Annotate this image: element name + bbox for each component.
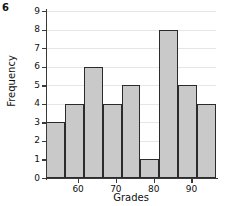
y-axis-tick-label: 9 [30, 7, 40, 16]
y-axis-tick-label: 6 [30, 62, 40, 71]
y-axis-line [46, 9, 47, 180]
y-axis-tick-label: 1 [30, 155, 40, 164]
histogram-bar [122, 85, 141, 178]
y-axis-tick [42, 30, 47, 31]
y-axis-tick-label: 8 [30, 25, 40, 34]
histogram-bar [103, 104, 122, 178]
x-axis-tick [154, 179, 155, 183]
bars-layer [46, 11, 216, 178]
y-axis-tick-label: 2 [30, 136, 40, 145]
y-axis-tick [42, 48, 47, 49]
x-axis-title: Grades [46, 192, 216, 204]
y-axis-tick-label: 0 [30, 174, 40, 183]
y-axis-tick [42, 141, 47, 142]
x-axis-tick [116, 179, 117, 183]
y-axis-tick-label: 5 [30, 81, 40, 90]
x-axis-tick [78, 179, 79, 183]
histogram-bar [65, 104, 84, 178]
y-axis-title: Frequency [6, 31, 18, 131]
y-axis-tick-label: 4 [30, 99, 40, 108]
y-axis-tick [42, 11, 47, 12]
y-axis-tick [42, 67, 47, 68]
y-axis-tick-label: 3 [30, 118, 40, 127]
figure-number: 6 [2, 2, 9, 14]
y-axis-tick [42, 178, 47, 179]
y-axis-tick-label: 7 [30, 44, 40, 53]
histogram-bar [178, 85, 197, 178]
y-axis-tick [42, 159, 47, 160]
y-axis-tick-labels: 0123456789 [28, 0, 40, 206]
y-axis-tick [42, 85, 47, 86]
y-axis-tick [42, 122, 47, 123]
plot-area [46, 11, 216, 178]
histogram-bar [84, 67, 103, 178]
histogram-figure: 6 0123456789 60708090 Grades Frequency [0, 0, 226, 206]
histogram-bar [140, 159, 159, 178]
histogram-bar [46, 122, 65, 178]
x-axis-tick [191, 179, 192, 183]
histogram-bar [159, 30, 178, 178]
histogram-bar [197, 104, 216, 178]
y-axis-tick [42, 104, 47, 105]
